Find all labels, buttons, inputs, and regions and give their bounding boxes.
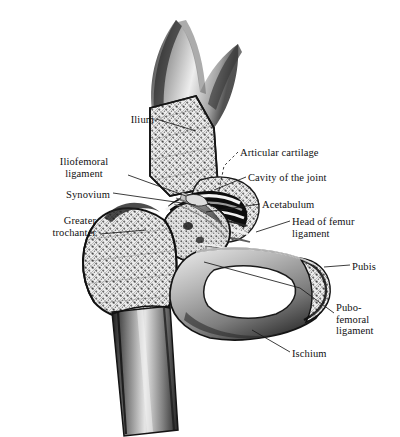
label-pubofemoral-ligament: Pubo- femoral ligament: [336, 302, 398, 337]
label-acetabulum: Acetabulum: [262, 199, 346, 211]
label-ilium: Ilium: [98, 114, 154, 126]
label-cavity-of-the-joint: Cavity of the joint: [248, 172, 366, 184]
label-greater-trochanter: Greater trochanter: [18, 215, 96, 238]
label-pubis: Pubis: [352, 261, 398, 273]
label-articular-cartilage: Articular cartilage: [240, 147, 356, 159]
label-ischium: Ischium: [292, 348, 348, 360]
label-head-of-femur-ligament: Head of femur ligament: [292, 216, 386, 239]
label-iliofemoral-ligament: Iliofemoral ligament: [44, 156, 124, 179]
illustration-canvas: Ilium Iliofemoral ligament Synovium Grea…: [0, 0, 400, 437]
label-synovium: Synovium: [38, 189, 110, 201]
